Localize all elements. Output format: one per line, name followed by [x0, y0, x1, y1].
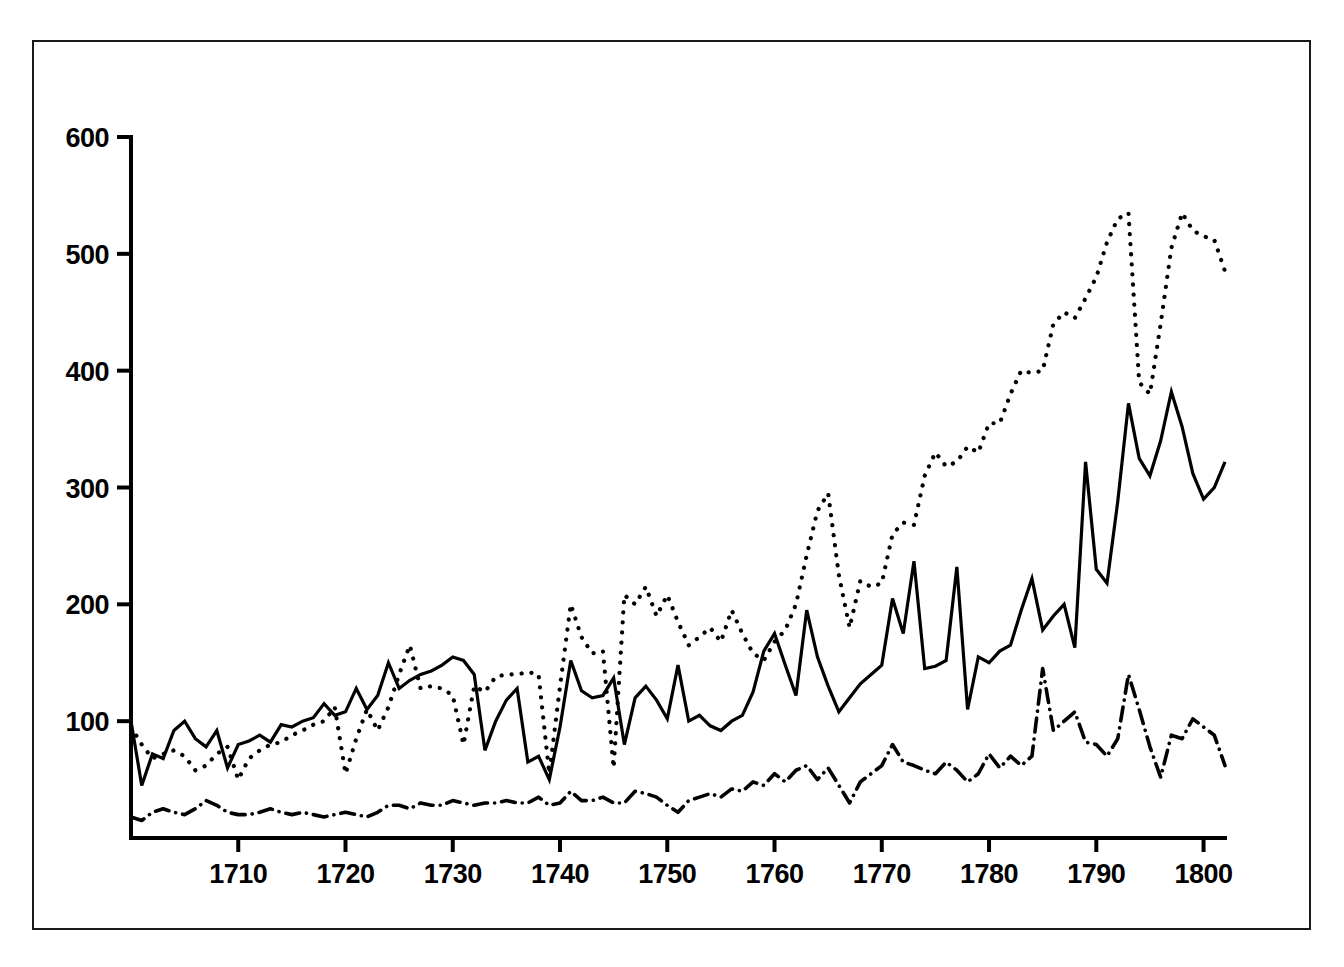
- line-chart-plot: 100200300400500600 171017201730174017501…: [0, 0, 1344, 967]
- x-tick-label: 1740: [531, 859, 589, 889]
- x-tick-label: 1780: [960, 859, 1018, 889]
- y-tick-label: 300: [65, 474, 109, 504]
- data-series-group: [131, 213, 1225, 821]
- x-tick-label: 1760: [745, 859, 803, 889]
- x-tick-label: 1710: [209, 859, 267, 889]
- x-tick-label: 1720: [316, 859, 374, 889]
- x-tick-label: 1770: [853, 859, 911, 889]
- chart-figure: 100200300400500600 171017201730174017501…: [0, 0, 1344, 967]
- series-dotted: [131, 213, 1225, 780]
- x-tick-label: 1790: [1067, 859, 1125, 889]
- x-tick-label: 1750: [638, 859, 696, 889]
- y-tick-label: 200: [65, 590, 109, 620]
- y-tick-label: 500: [65, 240, 109, 270]
- series-dashdot: [131, 669, 1225, 821]
- y-tick-label: 600: [65, 123, 109, 153]
- x-axis-ticks: 1710172017301740175017601770178017901800: [209, 838, 1232, 889]
- x-tick-label: 1800: [1175, 859, 1233, 889]
- y-axis-ticks: 100200300400500600: [65, 123, 131, 737]
- y-tick-label: 400: [65, 357, 109, 387]
- x-tick-label: 1730: [424, 859, 482, 889]
- series-solid: [131, 392, 1225, 786]
- y-tick-label: 100: [65, 707, 109, 737]
